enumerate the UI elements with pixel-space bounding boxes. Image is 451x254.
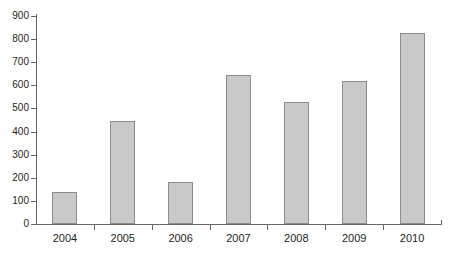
x-axis-tick-label: 2009 [325, 232, 383, 245]
y-axis-tick-label-text: 100 [1, 196, 29, 206]
bar-2007 [226, 75, 251, 224]
y-axis-tick-label: 0 [0, 224, 29, 234]
y-axis-tick-label-text: 700 [1, 57, 29, 67]
bar-2009 [342, 81, 367, 224]
bar-2006 [168, 182, 193, 224]
x-axis-tick [152, 225, 153, 230]
bar-chart: 0100200300400500600700800900 20042005200… [0, 0, 451, 254]
x-axis-tick-label: 2005 [94, 232, 152, 245]
x-axis-tick [267, 225, 268, 230]
y-axis-tick-label-text: 0 [1, 219, 29, 229]
y-axis-tick-label: 900 [0, 16, 29, 26]
y-axis-tick-label-text: 600 [1, 80, 29, 90]
x-axis-tick-label: 2007 [210, 232, 268, 245]
y-axis-tick-label-text: 500 [1, 103, 29, 113]
x-axis-tick-label: 2004 [36, 232, 94, 245]
y-axis-tick-label: 500 [0, 108, 29, 118]
y-axis-tick-label-text: 400 [1, 127, 29, 137]
y-axis-tick-label-text: 300 [1, 150, 29, 160]
x-axis-line [36, 224, 442, 225]
y-axis-tick-label: 700 [0, 62, 29, 72]
y-axis-tick-label-text: 900 [1, 11, 29, 21]
x-axis-end-tick [441, 220, 442, 225]
x-axis-tick [383, 225, 384, 230]
y-axis-tick-label: 400 [0, 132, 29, 142]
bar-2008 [284, 102, 309, 224]
y-axis-tick-label: 200 [0, 178, 29, 188]
x-axis-tick [210, 225, 211, 230]
x-axis-tick [325, 225, 326, 230]
x-axis-tick-label: 2008 [267, 232, 325, 245]
y-axis-tick-label: 800 [0, 39, 29, 49]
y-axis-tick-label-text: 800 [1, 34, 29, 44]
y-axis-tick-label: 300 [0, 155, 29, 165]
x-axis-tick [94, 225, 95, 230]
y-axis-tick-label: 600 [0, 85, 29, 95]
y-axis-tick-label: 100 [0, 201, 29, 211]
y-axis-tick-label-text: 200 [1, 173, 29, 183]
bar-2010 [400, 33, 425, 224]
bar-2004 [52, 192, 77, 224]
y-axis-line [36, 14, 37, 225]
bar-2005 [110, 121, 135, 224]
x-axis-tick-label: 2006 [152, 232, 210, 245]
x-axis-tick-label: 2010 [383, 232, 441, 245]
